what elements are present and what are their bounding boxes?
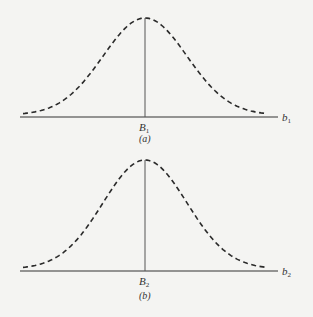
sampling-distribution-figure: B1 b1 (a) B2 b2 (b) (0, 0, 313, 317)
panel-a: B1 b1 (a) (20, 18, 292, 145)
axis-label-a: b1 (282, 111, 292, 125)
center-label-b: B2 (139, 275, 150, 289)
panel-b: B2 b2 (b) (20, 160, 292, 302)
axis-label-b: b2 (282, 265, 292, 279)
caption-a: (a) (139, 133, 151, 145)
caption-b: (b) (139, 290, 151, 302)
